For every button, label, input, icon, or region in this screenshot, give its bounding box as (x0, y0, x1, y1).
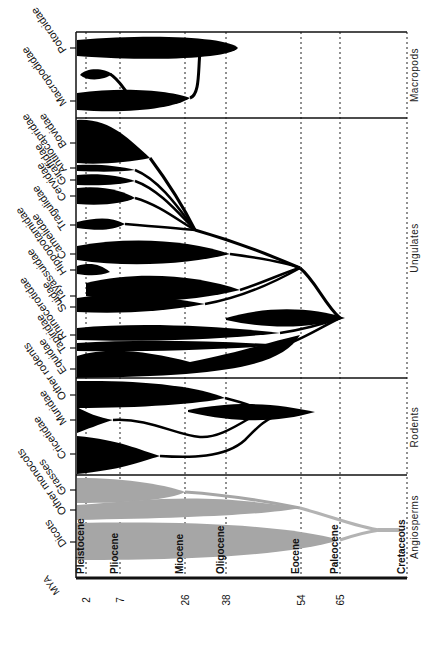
tick-65: 65 (335, 594, 346, 606)
label-dicots: Dicots (41, 517, 69, 549)
era-oligocene: Oligocene (215, 525, 226, 574)
group-label-ungulates: Ungulates (409, 223, 420, 273)
branch-macropodidae (77, 90, 190, 111)
branch-camelidae (77, 240, 230, 264)
era-eocene: Eocene (290, 538, 301, 574)
branch-giraffidae (77, 174, 135, 185)
branch-hippopotamidae (77, 264, 110, 275)
group-angiosperms (77, 478, 400, 560)
label-potoroidae: Potoroidae (28, 5, 68, 55)
tick-7: 7 (115, 597, 126, 603)
era-pliocene: Pliocene (109, 532, 120, 574)
branch-antilocapridae (77, 165, 135, 172)
branch-cricetidae (77, 436, 160, 474)
era-pleistocene: Pleistocene (75, 518, 86, 574)
branch-other-rodents (77, 381, 225, 408)
tick-26: 26 (180, 594, 191, 606)
tick-38: 38 (221, 594, 232, 606)
group-ungulates (77, 120, 345, 378)
taxa-labels: Potoroidae Macropodidae Bovidae Antiloca… (13, 5, 69, 549)
group-rodents (77, 381, 315, 474)
tick-54: 54 (296, 594, 307, 606)
tick-2: 2 (81, 597, 92, 603)
era-cretaceous: Cretaceous (396, 519, 407, 574)
phylogeny-chart: Potoroidae Macropodidae Bovidae Antiloca… (0, 0, 429, 651)
group-label-rodents: Rodents (409, 407, 420, 448)
group-label-macropods: Macropods (409, 48, 420, 102)
branch-cervidae (77, 187, 135, 204)
branch-rhinocerotidae (77, 325, 280, 341)
branch-macropodidae-2 (80, 69, 112, 79)
branch-bovidae (77, 120, 150, 164)
branch-tragulidae (77, 219, 125, 230)
group-macropods (77, 37, 238, 112)
group-labels: Macropods Ungulates Rodents Angiosperms (409, 48, 420, 559)
branch-muridae (77, 407, 113, 433)
branch-potoroidae (77, 37, 238, 59)
era-paleocene: Paleocene (329, 524, 340, 574)
axis-title-mya: MYA (40, 573, 61, 597)
era-miocene: Miocene (174, 534, 185, 574)
taxa-ticks (70, 48, 76, 542)
group-label-angiosperms: Angiosperms (409, 495, 420, 559)
